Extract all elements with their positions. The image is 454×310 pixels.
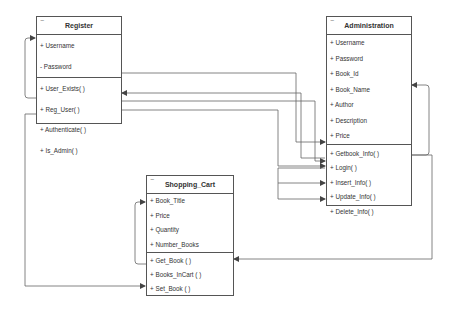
class-header: − Administration	[327, 17, 411, 35]
method-row: + Reg_User( )	[37, 100, 121, 121]
collapse-icon[interactable]: −	[150, 171, 154, 188]
attribute-row: + Description	[327, 113, 411, 129]
class-shopping-cart[interactable]: − Shopping_Cart + Book_Title + Price + Q…	[146, 175, 234, 296]
attribute-row: + Quantity	[147, 223, 233, 238]
methods-section: + Getbook_Info( ) + Login( ) + Insert_In…	[327, 145, 411, 220]
method-row: + Insert_Info( )	[327, 176, 411, 191]
class-title: Register	[65, 22, 93, 29]
attributes-section: + Username + Password + Book_Id + Book_N…	[327, 35, 411, 145]
method-row: + User_Exists( )	[37, 79, 121, 100]
connector-login-reguser	[122, 93, 325, 158]
connector-admin-self	[411, 85, 429, 155]
attribute-row: + Username	[37, 36, 121, 57]
attribute-row: + Book_Title	[147, 194, 233, 209]
method-row: + Login( )	[327, 161, 411, 176]
connector-register-self	[25, 38, 36, 98]
attribute-row: + Price	[147, 209, 233, 224]
method-row: + Update_Info( )	[327, 190, 411, 205]
class-title: Shopping_Cart	[165, 181, 215, 188]
class-title: Administration	[344, 22, 393, 29]
method-row: + Is_Admin( )	[37, 141, 121, 162]
attribute-row: + Author	[327, 97, 411, 113]
method-row: + Get_Book ( )	[147, 254, 233, 268]
method-row: + Delete_Info( )	[327, 205, 411, 220]
attribute-row: + Username	[327, 35, 411, 51]
collapse-icon[interactable]: −	[330, 12, 334, 29]
method-row: + Books_InCart ( )	[147, 268, 233, 282]
attributes-section: + Book_Title + Price + Quantity + Number…	[147, 194, 233, 253]
attributes-section: + Username - Password	[37, 35, 121, 78]
connector-userexists-getbook	[121, 73, 325, 142]
connector-cart-self	[135, 202, 146, 264]
connector-register-insert	[121, 110, 325, 166]
attribute-row: + Price	[327, 128, 411, 144]
method-row: + Getbook_Info( )	[327, 147, 411, 162]
method-row: + Authenticate( )	[37, 120, 121, 141]
attribute-row: + Book_Name	[327, 82, 411, 98]
class-header: − Shopping_Cart	[147, 176, 233, 194]
attribute-row: + Number_Books	[147, 238, 233, 253]
methods-section: + Get_Book ( ) + Books_InCart ( ) + Set_…	[147, 253, 233, 296]
attribute-row: - Password	[37, 57, 121, 78]
class-administration[interactable]: − Administration + Username + Password +…	[326, 16, 412, 206]
attribute-row: + Password	[327, 51, 411, 67]
connector-update	[278, 168, 325, 199]
class-register[interactable]: − Register + Username - Password + User_…	[36, 16, 122, 124]
methods-section: + User_Exists( ) + Reg_User( ) + Authent…	[37, 78, 121, 161]
collapse-icon[interactable]: −	[40, 12, 44, 29]
method-row: + Set_Book ( )	[147, 282, 233, 296]
attribute-row: + Book_Id	[327, 66, 411, 82]
class-header: − Register	[37, 17, 121, 35]
